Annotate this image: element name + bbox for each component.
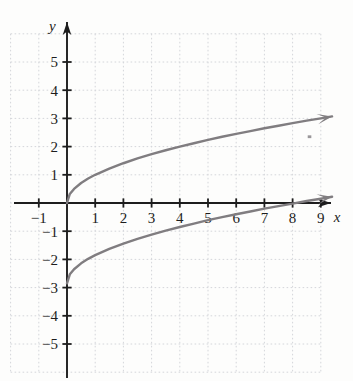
y-tick-label: 5 <box>51 54 59 70</box>
coordinate-plane: −1123456789−5−4−3−2−112345 y x <box>0 0 353 381</box>
y-tick-label: −3 <box>42 280 58 296</box>
y-tick-label: 2 <box>51 139 59 155</box>
y-axis-label: y <box>47 18 56 34</box>
x-tick-label: 3 <box>148 210 156 226</box>
x-tick-label: 2 <box>120 210 128 226</box>
x-tick-label: 4 <box>176 210 184 226</box>
y-tick-label: −4 <box>42 308 58 324</box>
x-tick-label: 6 <box>232 210 240 226</box>
graph-figure: −1123456789−5−4−3−2−112345 y x <box>0 0 353 381</box>
y-tick-label: −2 <box>42 252 58 268</box>
x-axis-label: x <box>333 209 341 225</box>
annotations <box>308 135 312 138</box>
y-tick-label: 4 <box>51 83 59 99</box>
y-tick-label: −5 <box>42 336 58 352</box>
y-tick-label: −1 <box>42 224 58 240</box>
x-tick-label: 7 <box>261 210 269 226</box>
stray-mark <box>308 135 312 138</box>
y-tick-label: 3 <box>51 111 59 127</box>
y-tick-label: 1 <box>51 167 59 183</box>
x-tick-label: 1 <box>91 210 99 226</box>
x-tick-label: 9 <box>317 210 325 226</box>
x-tick-label: 8 <box>289 210 297 226</box>
x-tick-label: 5 <box>204 210 212 226</box>
